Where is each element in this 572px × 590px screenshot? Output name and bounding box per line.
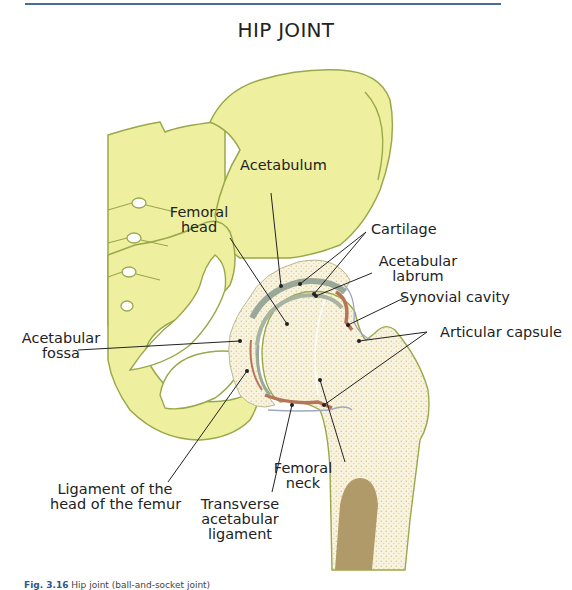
label-acetabular-labrum-line1: Acetabular [378, 254, 458, 269]
label-transverse-line1: Transverse [200, 497, 280, 512]
label-articular-capsule: Articular capsule [440, 325, 562, 340]
label-acetabular-fossa-line2: fossa [20, 346, 102, 361]
label-synovial-cavity: Synovial cavity [400, 290, 510, 305]
label-ligament-line1: Ligament of the [50, 482, 180, 497]
label-transverse-line3: ligament [200, 527, 280, 542]
sacral-foramen-1 [132, 198, 146, 208]
caption-prefix: Fig. 3.16 [24, 580, 68, 590]
label-ligament-line2: head of the femur [50, 497, 180, 512]
femur [262, 291, 429, 570]
label-acetabular-fossa: Acetabular fossa [20, 331, 102, 361]
label-acetabular-labrum: Acetabular labrum [378, 254, 458, 284]
sacral-foramen-3 [122, 267, 136, 277]
label-femoral-neck-line1: Femoral [268, 461, 338, 476]
label-femoral-neck-line2: neck [268, 476, 338, 491]
label-acetabulum: Acetabulum [240, 158, 327, 173]
label-femoral-head-line1: Femoral [164, 205, 234, 220]
label-femoral-neck: Femoral neck [268, 461, 338, 491]
label-cartilage: Cartilage [371, 222, 437, 237]
label-femoral-head-line2: head [164, 220, 234, 235]
label-transverse-line2: acetabular [200, 512, 280, 527]
label-transverse-acetabular-ligament: Transverse acetabular ligament [200, 497, 280, 542]
label-femoral-head: Femoral head [164, 205, 234, 235]
figure-caption: Fig. 3.16 Hip joint (ball-and-socket joi… [24, 580, 210, 590]
sacral-foramen-4 [121, 301, 133, 311]
label-acetabular-labrum-line2: labrum [378, 269, 458, 284]
label-acetabular-fossa-line1: Acetabular [20, 331, 102, 346]
label-ligament-head-femur: Ligament of the head of the femur [50, 482, 180, 512]
caption-text: Hip joint (ball-and-socket joint) [71, 580, 210, 590]
sacral-foramen-2 [127, 233, 141, 243]
